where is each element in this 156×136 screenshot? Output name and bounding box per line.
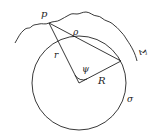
label-Sigma: Σ bbox=[137, 47, 149, 57]
label-sigma: σ bbox=[127, 94, 134, 104]
label-rho: ρ bbox=[72, 27, 79, 37]
label-R: R bbox=[97, 75, 106, 86]
rho-line bbox=[49, 23, 121, 61]
label-r: r bbox=[54, 50, 59, 60]
label-psi: ψ bbox=[82, 64, 90, 74]
label-p: p bbox=[41, 8, 48, 19]
geometry-diagram: p ρ r ψ R σ Σ bbox=[0, 0, 156, 136]
